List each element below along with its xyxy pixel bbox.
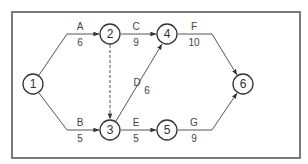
node-4: 4 bbox=[157, 24, 177, 44]
edge-a bbox=[39, 34, 99, 75]
network-diagram: A 6 B 5 C 9 D 6 E 5 F 10 G 9 1 2 3 4 5 bbox=[0, 0, 308, 164]
edge-b bbox=[39, 93, 99, 130]
node-1-label: 1 bbox=[30, 77, 37, 91]
edge-a-activity: A bbox=[77, 21, 84, 32]
edge-a-duration: 6 bbox=[77, 37, 83, 48]
edge-b-duration: 5 bbox=[77, 133, 83, 144]
edge-g-activity: G bbox=[190, 117, 198, 128]
node-6-label: 6 bbox=[240, 77, 247, 91]
node-4-label: 4 bbox=[164, 27, 171, 41]
edge-e-activity: E bbox=[133, 117, 140, 128]
edge-g bbox=[178, 93, 237, 130]
node-6: 6 bbox=[233, 74, 253, 94]
edge-c-duration: 9 bbox=[133, 37, 139, 48]
node-3-label: 3 bbox=[107, 123, 114, 137]
edge-f-duration: 10 bbox=[188, 37, 200, 48]
edge-f-activity: F bbox=[191, 21, 197, 32]
node-1: 1 bbox=[23, 74, 43, 94]
node-5-label: 5 bbox=[164, 123, 171, 137]
edge-d-duration: 6 bbox=[144, 85, 150, 96]
edge-c-activity: C bbox=[132, 21, 139, 32]
edge-e-duration: 5 bbox=[133, 133, 139, 144]
edge-f bbox=[178, 34, 237, 75]
edge-d-activity: D bbox=[133, 77, 140, 88]
node-2-label: 2 bbox=[107, 27, 114, 41]
node-3: 3 bbox=[100, 120, 120, 140]
node-5: 5 bbox=[157, 120, 177, 140]
node-2: 2 bbox=[100, 24, 120, 44]
edge-g-duration: 9 bbox=[191, 133, 197, 144]
edge-b-activity: B bbox=[77, 117, 84, 128]
